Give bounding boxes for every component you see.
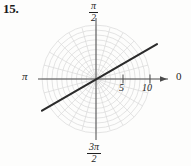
radial-tick-label-10: 10 (142, 82, 152, 93)
polar-plot-figure: 15. (0, 0, 191, 166)
fraction-denominator: 2 (87, 154, 101, 165)
fraction-numerator: 3π (87, 142, 101, 154)
fraction-denominator: 2 (89, 13, 98, 24)
polar-axis-arrowhead (160, 76, 167, 82)
angle-label-pi-over-2: π 2 (89, 1, 98, 23)
radial-tick-label-5: 5 (119, 82, 124, 93)
fraction-pi-over-2: π 2 (89, 1, 98, 23)
angle-label-zero: 0 (176, 71, 182, 82)
angle-label-3pi-over-2: 3π 2 (87, 142, 101, 164)
fraction-3pi-over-2: 3π 2 (87, 142, 101, 164)
fraction-numerator: π (89, 1, 98, 13)
angle-label-pi: π (22, 71, 28, 82)
